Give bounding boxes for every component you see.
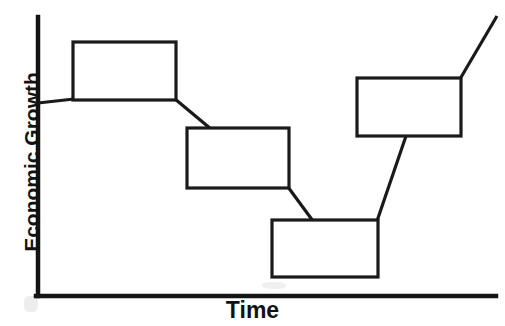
trend-segment-box4-to-top-right: [460, 16, 497, 79]
trend-segment-box2-to-box3: [288, 187, 313, 221]
trend-segment-box3-to-box4: [377, 136, 406, 221]
x-axis-label: Time: [0, 297, 505, 324]
annotation-boxes-group: [73, 42, 461, 277]
annotation-box-4[interactable]: [357, 78, 461, 136]
annotation-box-3[interactable]: [272, 220, 378, 277]
chart-canvas: [0, 0, 505, 326]
annotation-box-1[interactable]: [73, 42, 176, 100]
trend-segment-box1-to-box2: [175, 99, 211, 129]
y-axis-label: Economic Growth: [20, 42, 44, 282]
annotation-box-2[interactable]: [187, 128, 289, 188]
economic-growth-diagram: Economic Growth Time: [0, 0, 505, 326]
